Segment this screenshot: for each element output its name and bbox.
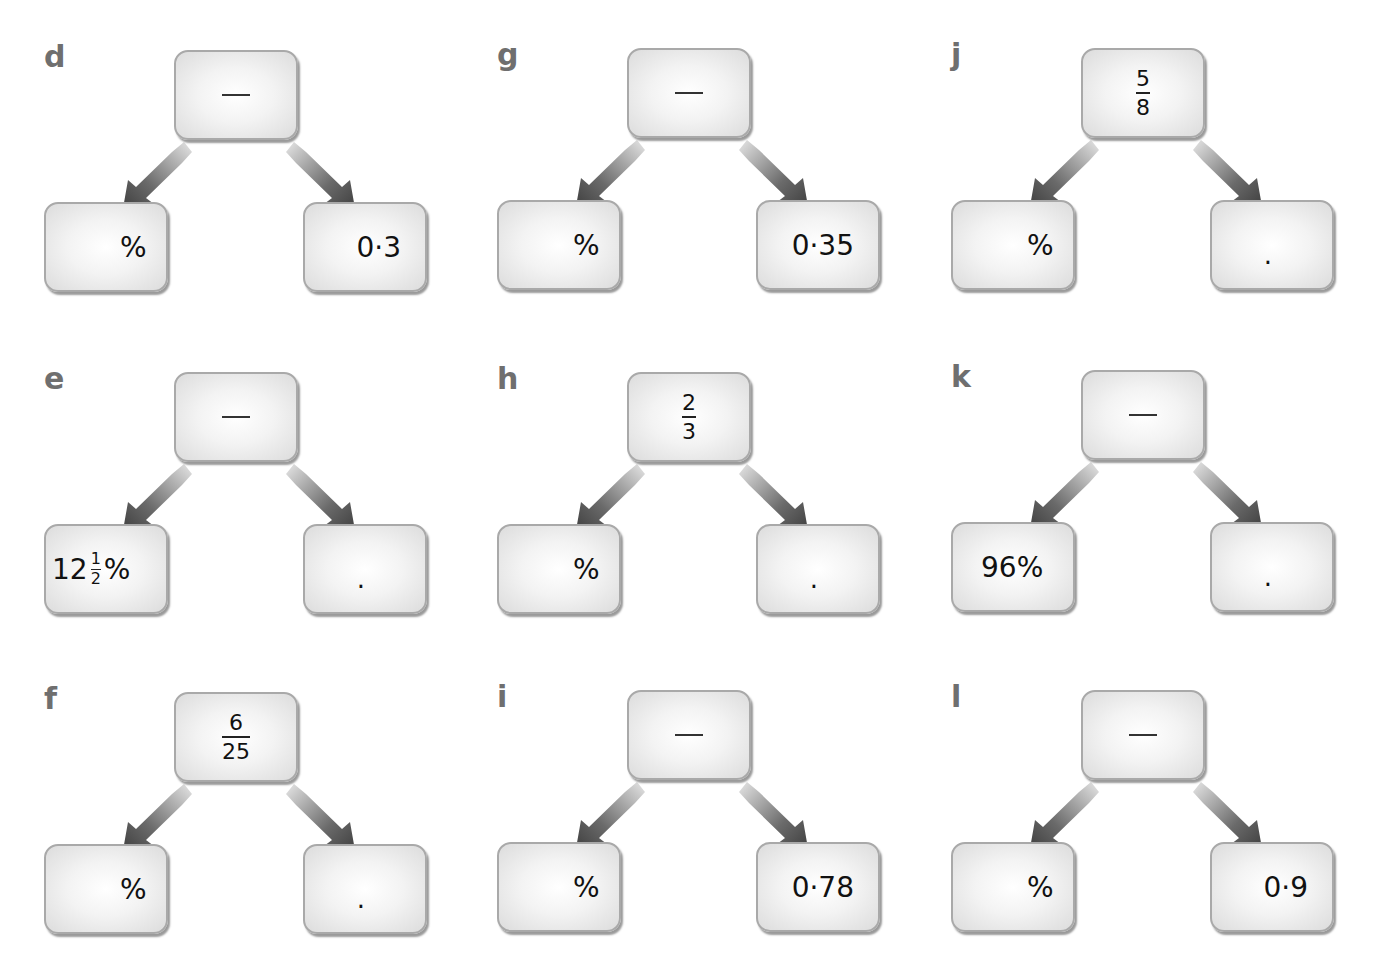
percent-value: 12 1 2 % xyxy=(52,551,130,588)
fraction-blank xyxy=(222,94,250,96)
percent-box[interactable]: % xyxy=(951,842,1075,932)
problem-k: k 96% . xyxy=(951,362,1379,672)
percent-box[interactable]: % xyxy=(497,842,621,932)
percent-value: % xyxy=(1027,871,1054,904)
percent-value: % xyxy=(120,873,147,906)
percent-box[interactable]: % xyxy=(951,200,1075,290)
problem-letter: j xyxy=(951,40,961,70)
decimal-value: 0·78 xyxy=(792,871,854,904)
decimal-box[interactable]: . xyxy=(303,524,427,614)
fraction-value: 6 25 xyxy=(222,711,250,763)
fraction-value: 2 3 xyxy=(682,391,696,443)
problem-letter: d xyxy=(44,42,65,72)
problem-g: g % 0·35 xyxy=(497,40,937,350)
fraction-box[interactable] xyxy=(627,690,751,780)
fraction-blank xyxy=(1129,734,1157,736)
decimal-point: . xyxy=(1264,562,1272,592)
problem-letter: e xyxy=(44,364,64,394)
fraction-blank xyxy=(222,416,250,418)
percent-value: % xyxy=(573,553,600,586)
fraction-box[interactable]: 2 3 xyxy=(627,372,751,462)
fraction-blank xyxy=(675,92,703,94)
problem-e: e 12 1 2 % . xyxy=(44,364,484,674)
fraction-box[interactable] xyxy=(1081,370,1205,460)
problem-i: i % 0·78 xyxy=(497,682,937,975)
percent-box[interactable]: % xyxy=(44,844,168,934)
decimal-box[interactable]: . xyxy=(1210,200,1334,290)
fraction-box[interactable] xyxy=(627,48,751,138)
decimal-box[interactable]: . xyxy=(756,524,880,614)
fraction-blank xyxy=(1129,414,1157,416)
percent-value: % xyxy=(573,229,600,262)
problem-letter: i xyxy=(497,682,507,712)
fraction-box[interactable] xyxy=(174,372,298,462)
mixed-fraction: 1 2 xyxy=(91,551,101,588)
decimal-box[interactable]: . xyxy=(1210,522,1334,612)
fraction-value: 5 8 xyxy=(1136,67,1150,119)
decimal-box[interactable]: 0·78 xyxy=(756,842,880,932)
decimal-point: . xyxy=(357,564,365,594)
problem-letter: g xyxy=(497,40,518,70)
percent-value: % xyxy=(573,871,600,904)
decimal-point: . xyxy=(810,564,818,594)
decimal-box[interactable]: 0·9 xyxy=(1210,842,1334,932)
problem-j: j 5 8 % . xyxy=(951,40,1379,350)
fraction-box[interactable] xyxy=(1081,690,1205,780)
percent-box[interactable]: % xyxy=(497,524,621,614)
decimal-box[interactable]: . xyxy=(303,844,427,934)
problem-f: f 6 25 % . xyxy=(44,684,484,975)
fraction-box[interactable]: 6 25 xyxy=(174,692,298,782)
decimal-box[interactable]: 0·3 xyxy=(303,202,427,292)
fraction-blank xyxy=(675,734,703,736)
percent-box[interactable]: 12 1 2 % xyxy=(44,524,168,614)
problem-d: d % 0·3 xyxy=(44,42,484,352)
problem-letter: f xyxy=(44,684,57,714)
problem-h: h 2 3 % . xyxy=(497,364,937,674)
problem-letter: k xyxy=(951,362,971,392)
percent-value: 96% xyxy=(981,551,1043,584)
percent-box[interactable]: % xyxy=(497,200,621,290)
percent-value: % xyxy=(120,231,147,264)
percent-box[interactable]: 96% xyxy=(951,522,1075,612)
fraction-box[interactable]: 5 8 xyxy=(1081,48,1205,138)
decimal-point: . xyxy=(1264,240,1272,270)
decimal-value: 0·3 xyxy=(356,231,401,264)
decimal-value: 0·9 xyxy=(1263,871,1308,904)
fraction-box[interactable] xyxy=(174,50,298,140)
decimal-point: . xyxy=(357,884,365,914)
problem-letter: l xyxy=(951,682,961,712)
decimal-value: 0·35 xyxy=(792,229,854,262)
problem-letter: h xyxy=(497,364,518,394)
percent-value: % xyxy=(1027,229,1054,262)
percent-box[interactable]: % xyxy=(44,202,168,292)
decimal-box[interactable]: 0·35 xyxy=(756,200,880,290)
problem-l: l % 0·9 xyxy=(951,682,1379,975)
